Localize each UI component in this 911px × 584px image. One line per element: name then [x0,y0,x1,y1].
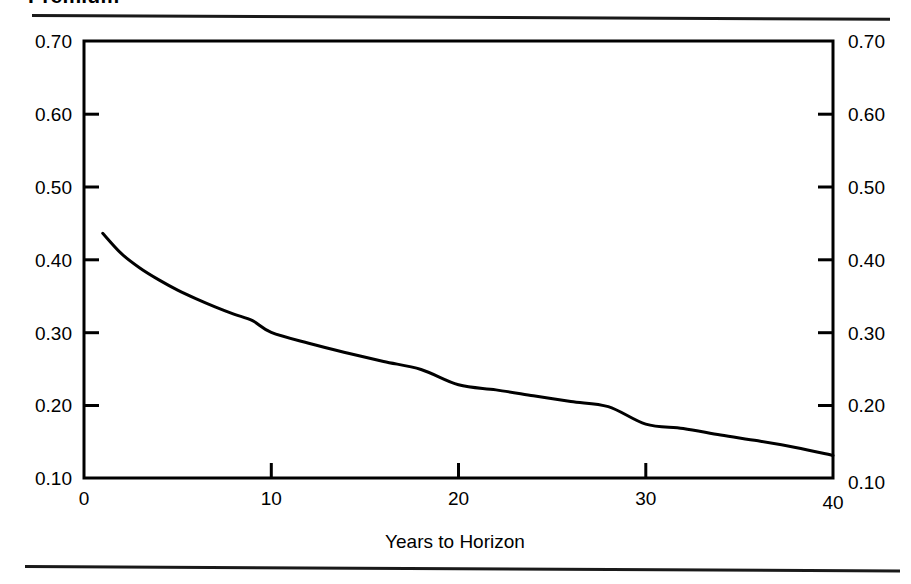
left-tick-label: 0.10 [35,468,72,489]
right-axis-ticks [818,114,833,405]
right-tick-label: 0.70 [848,31,885,52]
x-tick-label: 40 [822,492,843,513]
left-tick-label: 0.20 [35,395,72,416]
x-axis-tick-labels: 0 10 20 30 40 [79,488,844,513]
right-tick-label: 0.50 [848,177,885,198]
left-tick-label: 0.50 [35,177,72,198]
plot-frame [84,41,833,478]
figure-container: Premium 0.70 [0,0,911,584]
left-tick-label: 0.30 [35,323,72,344]
left-tick-label: 0.60 [35,104,72,125]
right-tick-label: 0.20 [848,395,885,416]
right-tick-label: 0.10 [848,472,885,493]
right-tick-label: 0.40 [848,250,885,271]
left-tick-label: 0.40 [35,250,72,271]
x-tick-label: 30 [635,488,656,509]
x-tick-label: 20 [448,488,469,509]
left-axis-tick-labels: 0.70 0.60 0.50 0.40 0.30 0.20 0.10 [35,31,72,489]
right-axis-tick-labels: 0.70 0.60 0.50 0.40 0.30 0.20 0.10 [848,31,885,493]
left-tick-label: 0.70 [35,31,72,52]
x-axis-title: Years to Horizon [385,531,525,552]
x-axis-ticks [271,463,646,478]
x-tick-label: 0 [79,488,90,509]
left-axis-ticks [84,114,99,405]
x-tick-label: 10 [261,488,282,509]
chart-plot: 0.70 0.60 0.50 0.40 0.30 0.20 0.10 0.70 … [0,0,911,584]
right-tick-label: 0.60 [848,104,885,125]
premium-curve [103,233,833,455]
right-tick-label: 0.30 [848,323,885,344]
